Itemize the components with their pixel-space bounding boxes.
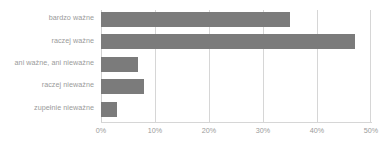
category-label-raczej-niewazne: raczej nieważne — [0, 81, 94, 89]
plot-area — [101, 10, 371, 123]
bar-zupelnie-niewazne — [101, 102, 117, 117]
bar-raczej-wazne — [101, 34, 355, 49]
xtick-label-20: 20% — [189, 126, 229, 136]
bar-bardzo-wazne — [101, 12, 290, 27]
axis-baseline — [101, 122, 372, 123]
category-label-zupelnie-niewazne: zupełnie nieważne — [0, 104, 94, 112]
category-label-bardzo-wazne: bardzo ważne — [0, 14, 94, 22]
value-axis: 0% 10% 20% 30% 40% 50% — [0, 126, 389, 140]
gridline-40 — [317, 10, 318, 123]
xtick-label-30: 30% — [243, 126, 283, 136]
category-label-raczej-wazne: raczej ważne — [0, 37, 94, 45]
xtick-label-10: 10% — [135, 126, 175, 136]
category-axis: bardzo ważne raczej ważne ani ważne, ani… — [0, 10, 98, 123]
bar-raczej-niewazne — [101, 79, 144, 94]
xtick-label-40: 40% — [297, 126, 337, 136]
bar-chart: bardzo ważne raczej ważne ani ważne, ani… — [0, 0, 389, 148]
xtick-label-0: 0% — [81, 126, 121, 136]
bar-ani-wazne-ani-niewazne — [101, 57, 138, 72]
gridline-50 — [370, 10, 371, 123]
category-label-ani-wazne-ani-niewazne: ani ważne, ani nieważne — [0, 59, 94, 67]
xtick-label-50: 50% — [351, 126, 389, 136]
